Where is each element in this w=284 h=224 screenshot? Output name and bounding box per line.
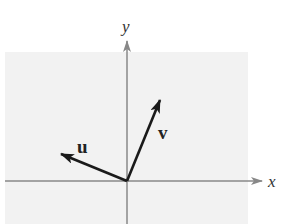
- x-axis-label: x: [267, 172, 276, 191]
- y-axis-label: y: [120, 17, 130, 36]
- vector-diagram: y x u v: [0, 0, 284, 224]
- vector-u-label: u: [77, 136, 88, 157]
- vector-v-label: v: [158, 122, 168, 143]
